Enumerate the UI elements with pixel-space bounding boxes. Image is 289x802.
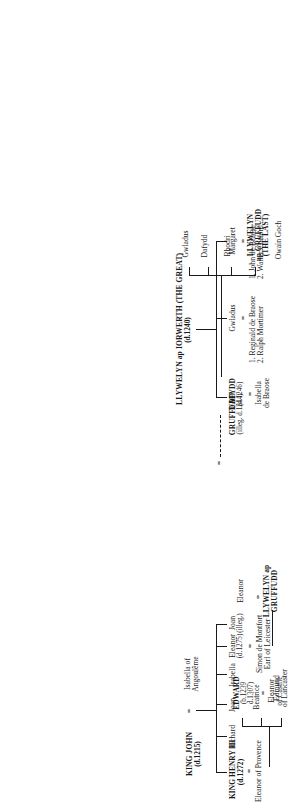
node-llywelyn-ap-gruffudd-spouse: LLYWELYN ap GRUFFUDD: [263, 561, 278, 621]
connector-llywelyn-sibling-bar: [216, 242, 217, 398]
node-beatrice: Beatrice: [253, 679, 261, 715]
node-llywelyn-ap-iorwerth: LLYWELYN ap IORWERTH (THE GREAT) (d.1240…: [176, 255, 191, 405]
node-isabella-de-braose: Isabella de Braose: [255, 371, 270, 415]
connector-stub-richard: [216, 736, 227, 737]
connector-john-descent: [196, 710, 216, 711]
node-isabella-angouleme: Isabella of Angoulême: [184, 644, 199, 704]
node-eleanor-daughter: Eleanor: [237, 565, 245, 617]
node-king-john: KING JOHN (d.1215): [186, 717, 201, 791]
king-henry-iii-dates: (d.1272): [237, 745, 245, 799]
node-gwladus: Gwladus: [229, 299, 237, 337]
gruffudd-illegitimate-equals: =: [216, 459, 223, 467]
connector-stub-gwladus2: [189, 267, 190, 276]
node-gwladus-2: Gwladus: [182, 224, 190, 264]
connector-gruffudd-to-children: [221, 276, 222, 377]
connector-gruffudd-children-bar: [189, 275, 255, 276]
connector-stub-rhodri: [231, 267, 232, 276]
connector-stub-henry: [216, 772, 227, 773]
king-john-marriage-equals: =: [186, 707, 193, 715]
connector-stub-eleanor: [216, 646, 227, 647]
edmund-of-lancaster: of Lancaster: [281, 661, 289, 715]
llywelyn-great-dates: (d.1240): [184, 255, 192, 405]
connector-stub-dafydd2: [208, 267, 209, 276]
node-richard: Richard: [229, 719, 237, 755]
dafydd-dates: (d.1246): [237, 374, 244, 414]
connector-gruffudd-dashed: [220, 415, 221, 457]
connector-stub-joan-illeg: [216, 624, 227, 625]
node-owain-goch: Owain Goch: [275, 213, 283, 267]
henry-marriage-equals: =: [246, 767, 253, 775]
connector-stub-edward: [242, 718, 243, 727]
connector-henry-descent: [269, 727, 270, 767]
eleanor-marriage-equals: =: [247, 642, 254, 650]
connector-stub-beatrice: [261, 718, 262, 727]
node-rhodri: Rhodri: [224, 228, 232, 264]
connector-stub-isabella: [216, 674, 227, 675]
connector-john-sibling-bar: [216, 625, 217, 773]
node-eleanor-provence: Eleanor of Provence: [255, 742, 263, 802]
isabella-angouleme-line2: Angoulême: [192, 644, 200, 704]
king-john-dates: (d.1215): [194, 717, 202, 791]
node-gwladus-spouses: 1. Reginald de Braose 2. Ralph Mortimer: [249, 271, 264, 363]
gwladus-spouse-2: 2. Ralph Mortimer: [257, 271, 265, 363]
node-dafydd-1246: DAFYDD (d.1246): [229, 374, 244, 414]
eleanor-daughter-name: Eleanor: [237, 565, 245, 617]
connector-llywelyn-descent: [196, 329, 216, 330]
isabella-de-braose-line2: de Braose: [263, 371, 271, 415]
connector-stub-joan: [216, 704, 227, 705]
node-llywelyn-the-last: LLYWELYN ap GRUFFUDD (THE LAST): [247, 206, 270, 264]
gwladus-marriage-equals: =: [240, 314, 247, 322]
connector-stub-llywelyn-last: [255, 267, 256, 276]
llywelyn-last-dates: (THE LAST): [262, 206, 270, 264]
llywelyn-spouse-line2: GRUFFUDD: [271, 561, 279, 621]
node-edmund-lancaster: Edmund of Lancaster: [273, 661, 288, 715]
connector-stub-edmund: [281, 718, 282, 727]
node-dafydd-2: Dafydd: [201, 228, 209, 264]
connector-stub-dafydd: [216, 397, 227, 398]
